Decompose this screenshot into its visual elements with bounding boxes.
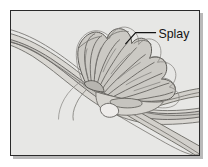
figure-root: Splay (0, 0, 208, 167)
splay-diagram-svg: Splay (11, 11, 199, 155)
figure-frame: Splay (10, 10, 200, 156)
splay-interior-pond (100, 103, 118, 117)
splay-label: Splay (158, 27, 190, 41)
